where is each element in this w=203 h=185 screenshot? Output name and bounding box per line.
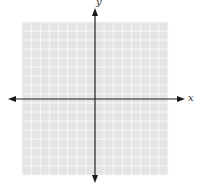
y-axis-top-arrow-icon [92,8,98,16]
x-axis-right-arrow-icon [177,96,185,102]
coordinate-plane [0,0,203,185]
x-axis-left-arrow-icon [8,96,16,102]
x-axis-label: x [188,93,194,103]
y-axis-bottom-arrow-icon [92,175,98,183]
y-axis-label: y [96,0,102,7]
